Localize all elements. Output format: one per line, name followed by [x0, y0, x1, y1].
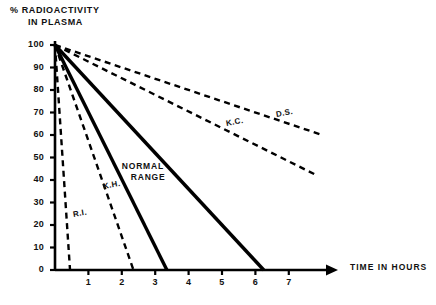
y-axis-tick-label: 60: [18, 129, 44, 139]
x-axis-tick-label: 5: [214, 277, 230, 287]
chart-axes: [55, 41, 338, 276]
x-axis-tick-label: 2: [114, 277, 130, 287]
y-axis-tick-label: 0: [18, 264, 44, 274]
chart-series-lines: [55, 45, 322, 270]
series-label-ri: R.I.: [72, 206, 88, 219]
y-axis-tick-label: 80: [18, 84, 44, 94]
x-axis-tick-label: 7: [281, 277, 297, 287]
x-axis-tick-label: 1: [80, 277, 96, 287]
y-axis-tick-label: 40: [18, 174, 44, 184]
series-line-normal range: [55, 45, 167, 270]
y-axis-tick-label: 100: [18, 39, 44, 49]
series-label-kh: K.H.: [102, 177, 121, 191]
series-label-normal-range: NORMALRANGE: [122, 161, 166, 183]
y-axis-tick-label: 50: [18, 152, 44, 162]
normal-range-line1: NORMAL: [122, 161, 164, 171]
x-axis-tick-label: 3: [147, 277, 163, 287]
y-axis-tick-label: 30: [18, 197, 44, 207]
y-axis-tick-label: 20: [18, 219, 44, 229]
y-axis-tick-label: 10: [18, 242, 44, 252]
x-axis-tick-label: 6: [247, 277, 263, 287]
chart-plot-area: [0, 0, 436, 305]
x-axis-arrowhead: [326, 265, 338, 276]
series-line-: [55, 45, 264, 270]
normal-range-line2: RANGE: [122, 172, 166, 183]
y-axis-tick-label: 90: [18, 62, 44, 72]
x-axis-tick-label: 4: [181, 277, 197, 287]
chart-figure: % RADIOACTIVITYIN PLASMA TIME IN HOURS 0…: [0, 0, 436, 305]
series-label-ds: D.S.: [275, 106, 294, 120]
y-axis-tick-label: 70: [18, 107, 44, 117]
